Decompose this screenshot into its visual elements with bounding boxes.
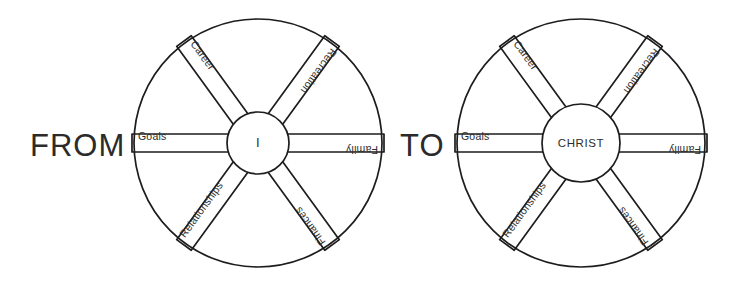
spoke-label-goals: Goals — [138, 130, 166, 142]
spoke-label-recreation: Recreation — [298, 47, 339, 97]
spoke-label-relationships: Relationships — [177, 179, 225, 239]
spoke-label-family: Family — [345, 144, 378, 156]
christ-centered-wheel[interactable]: GoalsCareerRecreationFamilyFinancesRelat… — [455, 19, 707, 267]
self-centered-wheel[interactable]: GoalsCareerRecreationFamilyFinancesRelat… — [132, 19, 384, 267]
hub-label: I — [256, 135, 260, 150]
spoke-label-relationships: Relationships — [500, 179, 548, 239]
spoke-career[interactable] — [500, 36, 567, 119]
spoke-label-family: Family — [668, 144, 701, 156]
diagram-canvas: FROM TO GoalsCareerRecreationFamilyFinan… — [0, 0, 734, 287]
spoke-label-goals: Goals — [461, 130, 489, 142]
from-label: FROM — [30, 128, 125, 164]
hub-label: CHRIST — [558, 137, 604, 149]
to-label: TO — [400, 128, 445, 164]
spoke-finances[interactable] — [595, 168, 662, 251]
spoke-career[interactable] — [177, 36, 249, 125]
spoke-label-recreation: Recreation — [621, 47, 662, 97]
spoke-finances[interactable] — [268, 161, 340, 250]
spoke-label-finances: Finances — [292, 205, 328, 248]
spoke-label-finances: Finances — [615, 205, 651, 248]
